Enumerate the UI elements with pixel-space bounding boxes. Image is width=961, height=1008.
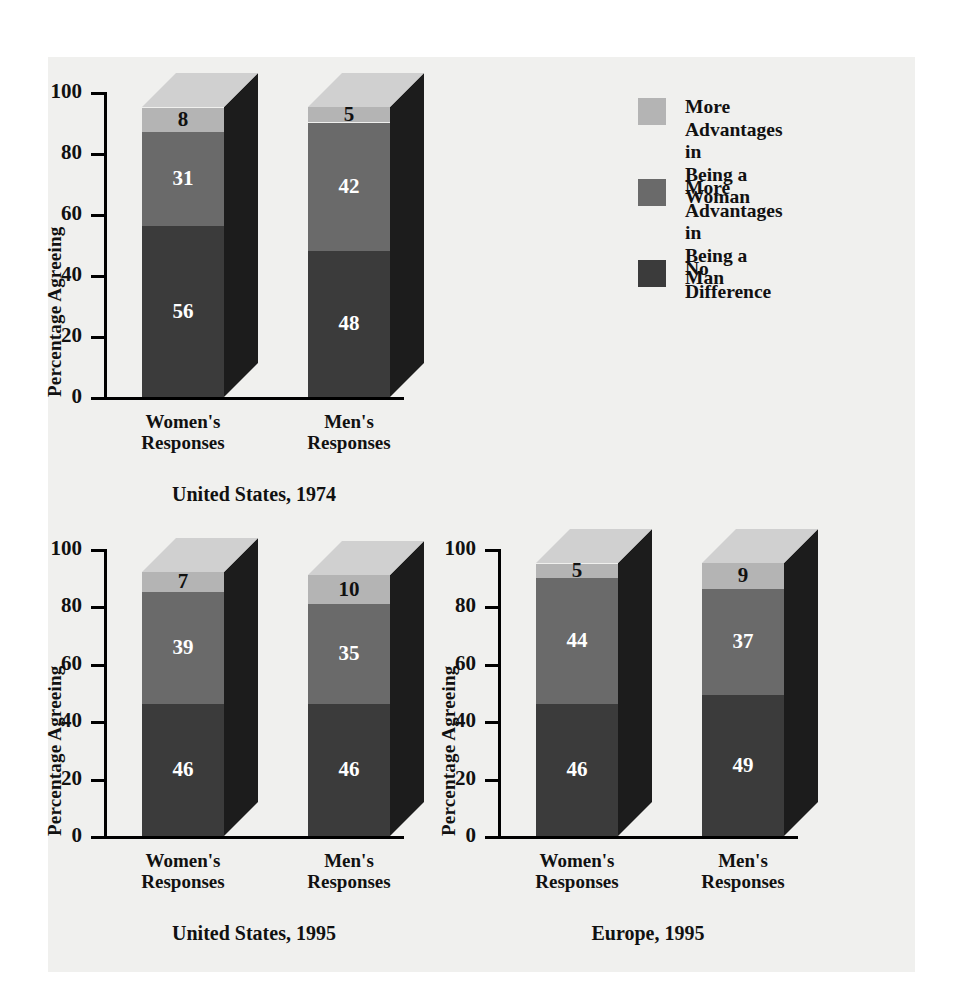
y-axis-tick <box>91 214 104 217</box>
bar-mens: 463510 <box>308 541 390 836</box>
bar-segment-value: 46 <box>308 759 390 780</box>
bar-segment-more-adv-woman: 5 <box>308 107 390 122</box>
y-axis-tick <box>91 153 104 156</box>
category-label: Women'sResponses <box>506 850 648 893</box>
y-axis-line <box>104 92 107 397</box>
bar-segment-value: 49 <box>702 755 784 776</box>
bar-segment-value: 5 <box>536 560 618 581</box>
y-axis-tick-label: 20 <box>14 768 82 789</box>
y-axis-tick-label: 60 <box>408 653 476 674</box>
x-axis-line <box>498 836 798 839</box>
chart-title-us-1995: United States, 1995 <box>64 922 444 945</box>
bar-segment-value: 5 <box>308 104 390 125</box>
bar-segment-value: 46 <box>142 759 224 780</box>
bar-womens: 46445 <box>536 529 618 836</box>
y-axis-tick-label: 20 <box>408 768 476 789</box>
y-axis-tick-label: 0 <box>14 825 82 846</box>
bar-segment-no-difference: 56 <box>142 226 224 397</box>
y-axis-tick <box>91 397 104 400</box>
legend-item-3[interactable]: No Difference <box>638 258 771 303</box>
y-axis-label: Percentage Agreeing <box>44 666 66 836</box>
bar-segment-more-adv-man: 39 <box>142 592 224 704</box>
bar-segment-more-adv-woman: 10 <box>308 575 390 604</box>
category-label: Men'sResponses <box>672 850 814 893</box>
y-axis-tick-label: 80 <box>14 595 82 616</box>
bar-segment-value: 37 <box>702 631 784 652</box>
bar-side-face <box>618 529 652 836</box>
bar-segment-value: 46 <box>536 759 618 780</box>
legend-label-3: No Difference <box>685 258 771 303</box>
bar-segment-value: 8 <box>142 109 224 130</box>
y-axis-tick <box>485 549 498 552</box>
y-axis-tick <box>91 836 104 839</box>
bar-womens: 46397 <box>142 538 224 836</box>
category-label: Women'sResponses <box>112 850 254 893</box>
chart-us-1974: Percentage Agreeing10080604020056318Wome… <box>104 92 524 537</box>
bar-segment-value: 56 <box>142 301 224 322</box>
bar-segment-more-adv-man: 42 <box>308 123 390 251</box>
y-axis-tick <box>91 549 104 552</box>
bar-segment-no-difference: 46 <box>142 704 224 836</box>
y-axis-tick <box>485 721 498 724</box>
y-axis-tick <box>485 779 498 782</box>
y-axis-tick-label: 100 <box>408 538 476 559</box>
bar-segment-no-difference: 46 <box>308 704 390 836</box>
bar-segment-more-adv-man: 37 <box>702 589 784 695</box>
chart-europe-1995: Percentage Agreeing10080604020046445Wome… <box>498 549 918 976</box>
y-axis-tick <box>485 836 498 839</box>
chart-title-us-1974: United States, 1974 <box>64 483 444 506</box>
x-axis-line <box>104 836 404 839</box>
bar-segment-more-adv-man: 31 <box>142 131 224 226</box>
y-axis-tick-label: 80 <box>14 142 82 163</box>
bar-side-face <box>224 538 258 836</box>
bar-side-face <box>390 73 424 397</box>
bar-side-face <box>390 541 424 836</box>
category-label: Men'sResponses <box>278 411 420 454</box>
y-axis-tick <box>485 606 498 609</box>
y-axis-tick <box>91 606 104 609</box>
y-axis-tick-label: 20 <box>14 325 82 346</box>
y-axis-tick <box>91 779 104 782</box>
bar-segment-value: 39 <box>142 637 224 658</box>
y-axis-tick <box>91 336 104 339</box>
y-axis-tick <box>485 664 498 667</box>
bar-side-face <box>224 73 258 397</box>
category-label: Men'sResponses <box>278 850 420 893</box>
chart-title-europe-1995: Europe, 1995 <box>458 922 838 945</box>
bar-segment-more-adv-man: 35 <box>308 604 390 704</box>
y-axis-tick-label: 60 <box>14 653 82 674</box>
y-axis-line <box>104 549 107 836</box>
y-axis-line <box>498 549 501 836</box>
legend-swatch-1 <box>638 98 666 125</box>
bar-mens: 48425 <box>308 73 390 397</box>
bar-segment-more-adv-woman: 5 <box>536 564 618 578</box>
y-axis-tick <box>91 92 104 95</box>
bar-segment-more-adv-woman: 7 <box>142 572 224 592</box>
bar-segment-more-adv-woman: 9 <box>702 563 784 589</box>
y-axis-tick <box>91 664 104 667</box>
bar-segment-value: 48 <box>308 313 390 334</box>
y-axis-label: Percentage Agreeing <box>438 666 460 836</box>
bar-segment-value: 42 <box>308 176 390 197</box>
bar-segment-value: 10 <box>308 579 390 600</box>
category-label: Women'sResponses <box>112 411 254 454</box>
legend-swatch-3 <box>638 260 666 287</box>
y-axis-tick-label: 0 <box>408 825 476 846</box>
bar-segment-value: 9 <box>702 565 784 586</box>
bar-segment-no-difference: 48 <box>308 251 390 397</box>
bar-segment-no-difference: 49 <box>702 695 784 836</box>
bar-segment-value: 7 <box>142 571 224 592</box>
y-axis-tick-label: 40 <box>14 264 82 285</box>
bar-segment-value: 35 <box>308 643 390 664</box>
bar-segment-value: 44 <box>536 630 618 651</box>
y-axis-tick-label: 100 <box>14 81 82 102</box>
y-axis-tick <box>91 721 104 724</box>
y-axis-tick-label: 40 <box>14 710 82 731</box>
y-axis-tick-label: 100 <box>14 538 82 559</box>
legend-swatch-2 <box>638 179 666 206</box>
x-axis-line <box>104 397 404 400</box>
bar-segment-value: 31 <box>142 168 224 189</box>
bar-side-face <box>784 529 818 836</box>
bar-segment-more-adv-woman: 8 <box>142 108 224 132</box>
y-axis-tick-label: 80 <box>408 595 476 616</box>
